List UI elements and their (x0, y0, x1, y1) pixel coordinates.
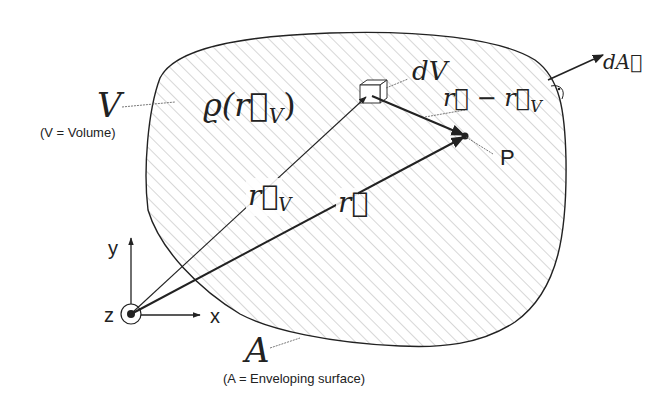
point-p-label: P (500, 145, 515, 170)
surface-caption: (A = Enveloping surface) (223, 371, 365, 386)
z-axis-label: z (104, 304, 114, 326)
volume-caption: (V = Volume) (40, 125, 116, 140)
volume-symbol: V (97, 85, 125, 125)
vector-r-label: r⃗ (338, 186, 368, 219)
volume-element-label: dV (412, 56, 450, 86)
volume-element-cube-icon (360, 80, 387, 103)
y-axis-label: y (108, 237, 118, 259)
surface-leader-line (270, 338, 300, 348)
point-p-marker (462, 133, 469, 140)
surface-normal-vector (548, 55, 603, 80)
x-axis-label: x (210, 305, 220, 327)
volume-diagram: V (V = Volume) ϱ(r⃗V) dV y x z r⃗V r⃗ r⃗… (0, 0, 670, 407)
surface-symbol: A (242, 330, 270, 370)
surface-normal-label: dA⃗ (603, 50, 642, 74)
vector-diff-label: r⃗ − r⃗V (443, 84, 543, 116)
